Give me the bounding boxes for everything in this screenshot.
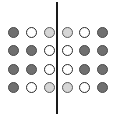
dot-light-r4-c4	[62, 82, 73, 93]
mirror-line	[56, 2, 58, 114]
dot-dark-r2-c6	[97, 45, 108, 56]
dot-white-r4-c5	[79, 82, 90, 93]
dot-white-r3-c4	[62, 64, 73, 75]
dot-white-r1-c5	[79, 27, 90, 38]
dot-dark-r1-c1	[8, 27, 19, 38]
dot-white-r1-c2	[26, 27, 37, 38]
dot-dark-r2-c5	[79, 45, 90, 56]
dot-dark-r4-c6	[97, 82, 108, 93]
dot-dark-r3-c5	[79, 64, 90, 75]
dot-grid-diagram	[0, 0, 114, 115]
dot-light-r4-c3	[44, 82, 55, 93]
dot-dark-r2-c2	[26, 45, 37, 56]
dot-white-r3-c3	[44, 64, 55, 75]
dot-dark-r3-c2	[26, 64, 37, 75]
dot-light-r1-c4	[62, 27, 73, 38]
dot-dark-r3-c1	[8, 64, 19, 75]
dot-white-r2-c3	[44, 45, 55, 56]
dot-white-r2-c4	[62, 45, 73, 56]
dot-dark-r1-c6	[97, 27, 108, 38]
dot-dark-r2-c1	[8, 45, 19, 56]
dot-dark-r4-c1	[8, 82, 19, 93]
dot-dark-r3-c6	[97, 64, 108, 75]
dot-white-r4-c2	[26, 82, 37, 93]
dot-light-r1-c3	[44, 27, 55, 38]
